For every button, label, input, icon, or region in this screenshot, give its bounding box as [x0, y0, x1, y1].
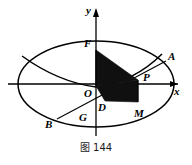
- point-label-M: M: [134, 108, 144, 119]
- point-label-D: D: [98, 102, 106, 113]
- y-axis-label: y: [86, 5, 91, 16]
- y-axis-arrow-icon: [93, 8, 99, 17]
- geometry-diagram: [0, 0, 192, 165]
- point-label-B: B: [45, 119, 52, 130]
- point-label-F: F: [84, 38, 91, 49]
- point-label-O: O: [84, 88, 92, 99]
- x-axis-label: x: [174, 86, 180, 97]
- point-label-A: A: [168, 51, 175, 62]
- figure-caption: 图 144: [0, 142, 192, 154]
- figure-container: F A P O D G M B x y 图 144: [0, 0, 192, 165]
- parabola-curve: [22, 54, 162, 87]
- point-label-G: G: [79, 112, 87, 123]
- point-label-P: P: [143, 72, 150, 83]
